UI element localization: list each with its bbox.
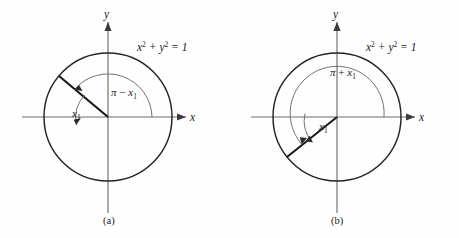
diagram-panel-b: y x x2 + y2 = 1 π + x1 x1 (b) bbox=[229, 0, 459, 238]
eq-equals-b: = 1 bbox=[397, 41, 416, 53]
x-axis-arrowhead-a bbox=[177, 113, 186, 120]
main-angle-op-b: + bbox=[336, 66, 348, 78]
eq-plus-a: + bbox=[146, 41, 160, 53]
x-axis-label-b: x bbox=[418, 111, 425, 123]
figure-container: y x x2 + y2 = 1 π − x1 x1 (a) bbox=[0, 0, 459, 238]
y-axis-label-a: y bbox=[103, 8, 110, 21]
circle-equation-a: x2 + y2 = 1 bbox=[136, 40, 188, 54]
reference-angle-sub-a: 1 bbox=[77, 113, 81, 122]
main-angle-sub-a: 1 bbox=[133, 92, 137, 101]
y-axis-label-b: y bbox=[332, 8, 339, 21]
circle-equation-b: x2 + y2 = 1 bbox=[365, 40, 417, 54]
x-axis-arrowhead-b bbox=[406, 113, 415, 120]
diagram-panel-a: y x x2 + y2 = 1 π − x1 x1 (a) bbox=[0, 0, 229, 238]
main-angle-label-a: π − x1 bbox=[111, 86, 137, 101]
eq-plus-b: + bbox=[375, 41, 389, 53]
eq-equals-a: = 1 bbox=[168, 41, 187, 53]
x-axis-label-a: x bbox=[189, 111, 196, 123]
panel-caption-a: (a) bbox=[103, 215, 115, 227]
y-axis-arrowhead-a bbox=[104, 22, 111, 31]
terminal-ray-b bbox=[287, 117, 337, 157]
reference-angle-sub-b: 1 bbox=[324, 126, 328, 135]
main-angle-sub-b: 1 bbox=[352, 72, 356, 81]
main-angle-label-b: π + x1 bbox=[330, 66, 356, 81]
reference-angle-label-b: x1 bbox=[318, 120, 328, 135]
main-angle-op-a: − bbox=[117, 86, 129, 98]
panel-caption-b: (b) bbox=[331, 215, 344, 227]
y-axis-arrowhead-b bbox=[333, 22, 340, 31]
reference-angle-label-a: x1 bbox=[71, 107, 81, 122]
